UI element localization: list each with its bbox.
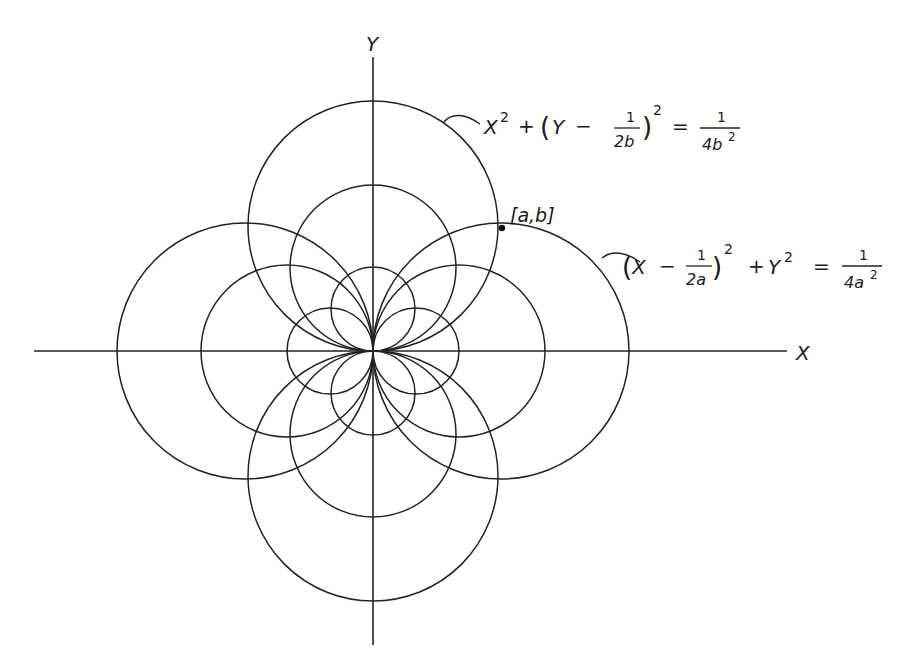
svg-text:Y: Y	[768, 255, 782, 279]
svg-text:=: =	[813, 254, 830, 278]
svg-text:2: 2	[653, 102, 662, 118]
svg-text:=: =	[672, 114, 689, 138]
y-axis-label: Y	[366, 32, 380, 56]
svg-text:2: 2	[500, 109, 509, 125]
svg-text:2a: 2a	[686, 270, 706, 289]
svg-text:1: 1	[859, 247, 868, 263]
svg-text:1: 1	[717, 109, 726, 125]
svg-text:X: X	[631, 255, 647, 279]
svg-text:): )	[642, 112, 652, 142]
svg-text:2: 2	[784, 249, 793, 265]
leader-vertical-circle	[444, 115, 480, 124]
equation-vertical-circle: X 2 + ( Y − 1 2b ) 2 = 1 4b 2	[483, 102, 740, 154]
svg-text:+: +	[748, 254, 765, 278]
x-axis-label: X	[795, 341, 811, 365]
svg-text:4a: 4a	[844, 273, 864, 292]
svg-text:2: 2	[724, 241, 733, 257]
point-a-b-label: [a,b]	[510, 204, 555, 226]
svg-text:+: +	[518, 114, 535, 138]
circle-family-diagram: [a,b] Y X X 2 + ( Y − 1 2b ) 2 = 1 4b 2 …	[0, 0, 919, 664]
svg-text:1: 1	[697, 247, 706, 263]
svg-text:−: −	[659, 254, 676, 278]
svg-text:): )	[712, 252, 722, 282]
svg-text:2b: 2b	[614, 132, 634, 151]
svg-text:X: X	[483, 115, 499, 139]
equation-horizontal-circle: ( X − 1 2a ) 2 + Y 2 = 1 4a 2	[622, 241, 882, 292]
svg-text:(: (	[540, 112, 550, 142]
svg-text:2: 2	[870, 268, 878, 282]
svg-text:2: 2	[728, 130, 736, 144]
svg-text:Y: Y	[552, 115, 566, 139]
svg-text:1: 1	[626, 109, 635, 125]
svg-text:4b: 4b	[702, 135, 722, 154]
svg-text:−: −	[575, 114, 592, 138]
point-a-b-marker	[499, 225, 505, 231]
svg-text:(: (	[622, 252, 632, 282]
